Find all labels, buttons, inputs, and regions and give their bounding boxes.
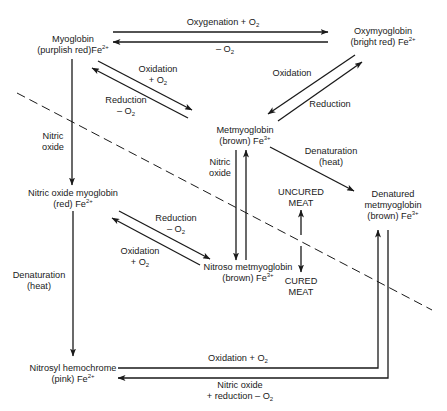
- edge-label-reduction-nitroso: Reduction – O2: [148, 213, 204, 235]
- edge-label-reduction-oxymyoglobin: Reduction: [300, 99, 360, 110]
- label-cured-meat: CURED MEAT: [276, 276, 326, 298]
- edge-label-nitric-oxide-mid: Nitric oxide: [206, 157, 234, 179]
- node-nitric-oxide-myoglobin: Nitric oxide myoglobin (red) Fe2+: [18, 188, 128, 210]
- node-oxymyoglobin: Oxymyoglobin (bright red) Fe2+: [333, 26, 433, 48]
- node-denatured-metmyoglobin: Denatured metmyoglobin (brown) Fe3+: [355, 189, 431, 222]
- edge-label-oxidation-myoglobin: Oxidation + O2: [128, 64, 188, 86]
- node-nitrosyl-hemochrome: Nitrosyl hemochrome (pink) Fe2+: [18, 363, 128, 385]
- node-myoglobin: Myoglobin (purplish red)Fe2+: [18, 34, 128, 56]
- label-uncured-meat: UNCURED MEAT: [276, 187, 326, 209]
- edge-label-oxidation-oxymyoglobin: Oxidation: [262, 68, 322, 79]
- node-metmyoglobin: Metmyoglobin (brown) Fe3+: [205, 125, 285, 147]
- edge-label-reduction-myoglobin: Reduction – O2: [98, 95, 154, 117]
- edge-label-oxidation-bottom: Oxidation + O2: [198, 353, 278, 364]
- edge-label-nitric-reduction-bottom: Nitric oxide + reduction – O2: [190, 380, 290, 402]
- edge-label-oxidation-nitroso: Oxidation + O2: [112, 246, 168, 268]
- edge-label-deoxygenation: – O2: [205, 44, 245, 55]
- edge-label-denaturation-met: Denaturation (heat): [296, 146, 366, 168]
- edge-label-denaturation-nom: Denaturation (heat): [8, 270, 70, 292]
- edge-label-nitric-oxide-left: Nitric oxide: [36, 131, 70, 153]
- edge-label-oxygenation: Oxygenation + O2: [168, 17, 278, 28]
